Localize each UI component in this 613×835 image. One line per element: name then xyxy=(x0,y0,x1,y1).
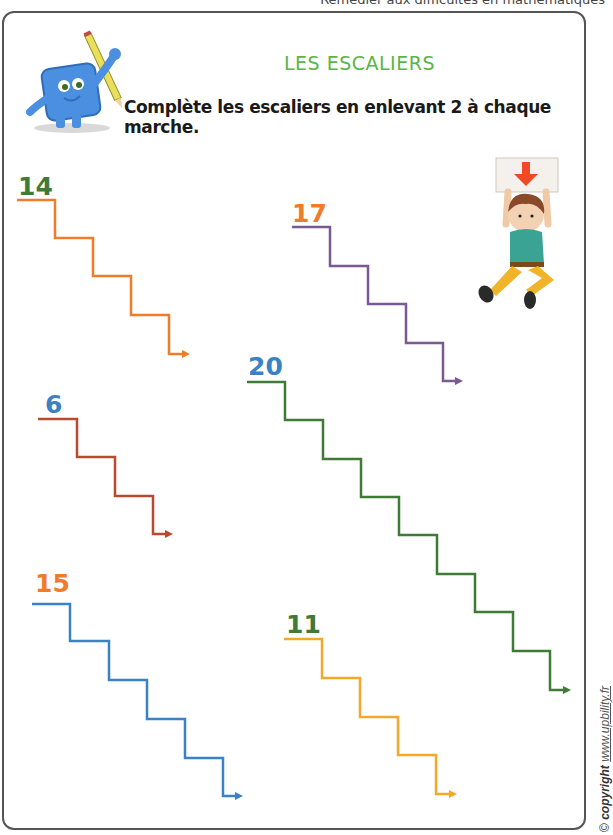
staircase-start-number: 14 xyxy=(18,172,53,201)
staircase-17 xyxy=(292,227,456,381)
staircase-start-number: 6 xyxy=(45,390,62,419)
staircases-drawing xyxy=(0,0,613,835)
copyright-notice: © copyright www.upbility.fr xyxy=(598,686,612,832)
staircase-6 xyxy=(38,419,166,534)
staircase-14 xyxy=(17,200,183,354)
copyright-label: copyright xyxy=(598,765,612,820)
staircase-11 xyxy=(284,639,450,794)
copyright-link[interactable]: www.upbility.fr xyxy=(598,686,612,762)
staircase-start-number: 17 xyxy=(292,199,327,228)
staircase-start-number: 20 xyxy=(248,352,283,381)
copyright-symbol: © xyxy=(598,823,612,832)
staircase-start-number: 11 xyxy=(286,610,321,639)
staircase-20 xyxy=(247,382,564,690)
staircase-15 xyxy=(32,604,236,796)
staircase-start-number: 15 xyxy=(35,569,70,598)
